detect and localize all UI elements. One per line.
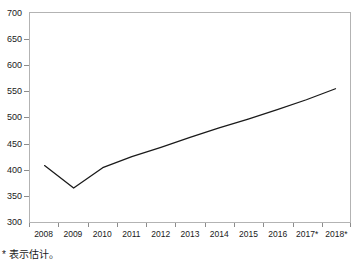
y-tick-label: 600 [7, 60, 22, 69]
x-tick-label: 2018* [325, 229, 347, 239]
x-tick-label: 2010 [93, 229, 112, 239]
x-tick-mark [263, 223, 264, 227]
x-tick-label: 2012 [151, 229, 170, 239]
y-tick-label: 500 [7, 113, 22, 122]
plot-area [29, 12, 351, 223]
y-tick-label: 450 [7, 139, 22, 148]
y-tick-label: 650 [7, 34, 22, 43]
x-tick-mark [88, 223, 89, 227]
x-tick-label: 2017* [296, 229, 318, 239]
estimate-footnote: * 表示估计。 [2, 249, 59, 261]
x-tick-label: 2015 [239, 229, 258, 239]
x-axis: 2008 2009 2010 2011 2012 2013 2014 2015 … [29, 223, 351, 245]
chart-figure: 700 650 600 550 500 450 400 350 300 [0, 0, 358, 269]
y-tick-label: 400 [7, 165, 22, 174]
x-tick-mark [117, 223, 118, 227]
y-tick-label: 700 [7, 8, 22, 17]
y-tick-label: 300 [7, 218, 22, 227]
x-tick-mark [175, 223, 176, 227]
x-tick-mark [234, 223, 235, 227]
x-tick-mark [205, 223, 206, 227]
x-tick-mark [293, 223, 294, 227]
data-line-svg [30, 13, 350, 222]
x-tick-mark [322, 223, 323, 227]
x-tick-mark [146, 223, 147, 227]
y-axis: 700 650 600 550 500 450 400 350 300 [0, 0, 29, 235]
x-tick-label: 2014 [210, 229, 229, 239]
x-tick-label: 2013 [181, 229, 200, 239]
x-tick-label: 2009 [63, 229, 82, 239]
x-tick-label: 2016 [268, 229, 287, 239]
x-tick-mark [58, 223, 59, 227]
x-tick-mark [29, 223, 30, 227]
x-tick-mark [350, 223, 351, 227]
data-series-line [45, 89, 336, 188]
y-tick-label: 550 [7, 87, 22, 96]
y-tick-label: 350 [7, 191, 22, 200]
x-tick-label: 2011 [122, 229, 140, 239]
x-tick-label: 2008 [34, 229, 53, 239]
